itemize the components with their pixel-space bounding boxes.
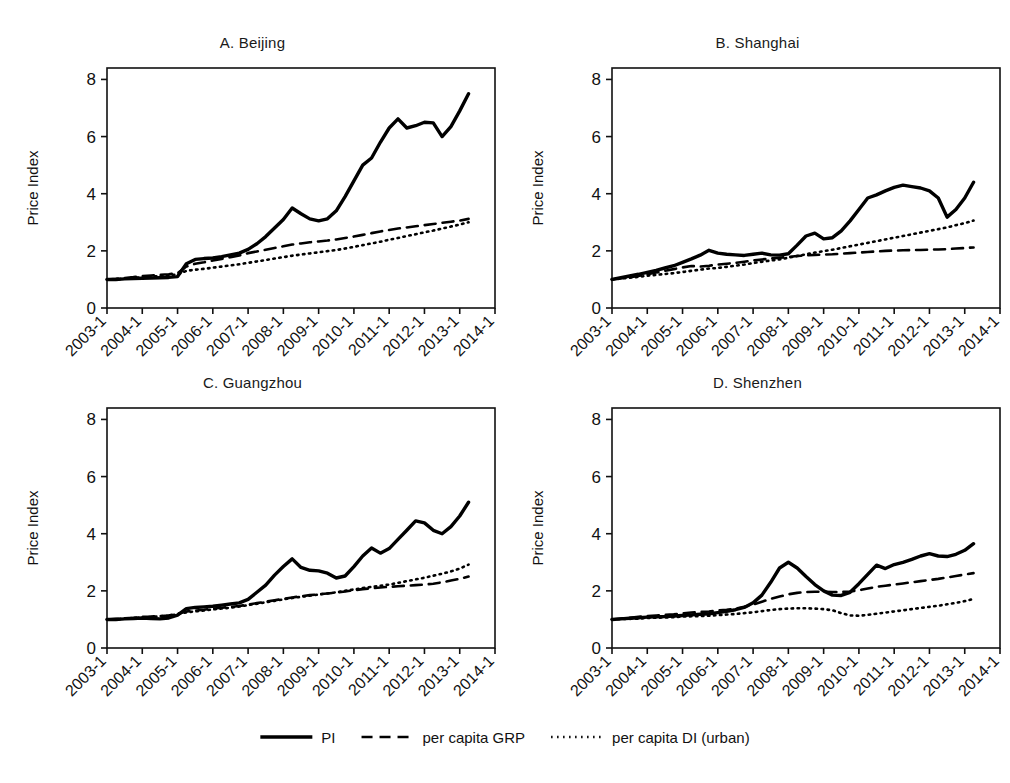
- chart-svg-beijing: 02468Price Index2003-12004-12005-12006-1…: [0, 30, 505, 380]
- chart-svg-guangzhou: 02468Price Index2003-12004-12005-12006-1…: [0, 370, 505, 720]
- data-series-dashed: [107, 219, 469, 280]
- x-axis-tick-label: 2010-1: [309, 652, 356, 699]
- y-axis-tick-label: 4: [592, 525, 601, 544]
- data-series-dotted: [107, 222, 469, 279]
- y-axis-tick-label: 6: [592, 128, 601, 147]
- y-axis-tick-label: 4: [592, 185, 601, 204]
- y-axis-tick-label: 2: [592, 242, 601, 261]
- y-axis-label: Price Index: [529, 150, 546, 226]
- data-series-dashed: [612, 573, 974, 619]
- chart-legend: PIper capita GRPper capita DI (urban): [0, 712, 1010, 762]
- chart-svg-shenzhen: 02468Price Index2003-12004-12005-12006-1…: [505, 370, 1010, 720]
- y-axis-tick-label: 6: [87, 128, 96, 147]
- y-axis-tick-label: 2: [87, 582, 96, 601]
- figure-container: A. Beijing 02468Price Index2003-12004-12…: [0, 0, 1010, 783]
- plot-frame: [107, 408, 495, 648]
- plot-frame: [107, 68, 495, 308]
- y-axis-tick-label: 8: [87, 410, 96, 429]
- y-axis-tick-label: 4: [87, 185, 96, 204]
- x-axis-tick-label: 2010-1: [814, 312, 861, 359]
- y-axis-label: Price Index: [24, 150, 41, 226]
- x-axis-tick-label: 2014-1: [450, 652, 497, 699]
- data-series-solid: [107, 502, 469, 619]
- legend-label: per capita DI (urban): [612, 729, 750, 746]
- data-series-solid: [612, 182, 974, 279]
- y-axis-tick-label: 2: [87, 242, 96, 261]
- legend-label: per capita GRP: [423, 729, 526, 746]
- y-axis-tick-label: 8: [592, 410, 601, 429]
- y-axis-tick-label: 6: [87, 468, 96, 487]
- data-series-dotted: [107, 565, 469, 620]
- chart-panel-shanghai: B. Shanghai 02468Price Index2003-12004-1…: [505, 30, 1010, 380]
- data-series-dotted: [612, 599, 974, 620]
- y-axis-label: Price Index: [529, 490, 546, 566]
- y-axis-tick-label: 2: [592, 582, 601, 601]
- x-axis-tick-label: 2010-1: [309, 312, 356, 359]
- x-axis-tick-label: 2014-1: [450, 312, 497, 359]
- plot-frame: [612, 408, 1000, 648]
- y-axis-tick-label: 8: [592, 70, 601, 89]
- x-axis-tick-label: 2010-1: [814, 652, 861, 699]
- chart-panel-guangzhou: C. Guangzhou 02468Price Index2003-12004-…: [0, 370, 505, 720]
- y-axis-label: Price Index: [24, 490, 41, 566]
- legend-label: PI: [321, 729, 335, 746]
- x-axis-tick-label: 2014-1: [955, 312, 1002, 359]
- chart-svg-shanghai: 02468Price Index2003-12004-12005-12006-1…: [505, 30, 1010, 380]
- y-axis-tick-label: 6: [592, 468, 601, 487]
- data-series-solid: [107, 94, 469, 280]
- x-axis-tick-label: 2014-1: [955, 652, 1002, 699]
- y-axis-tick-label: 4: [87, 525, 96, 544]
- plot-frame: [612, 68, 1000, 308]
- chart-panel-beijing: A. Beijing 02468Price Index2003-12004-12…: [0, 30, 505, 380]
- y-axis-tick-label: 8: [87, 70, 96, 89]
- chart-panel-shenzhen: D. Shenzhen 02468Price Index2003-12004-1…: [505, 370, 1010, 720]
